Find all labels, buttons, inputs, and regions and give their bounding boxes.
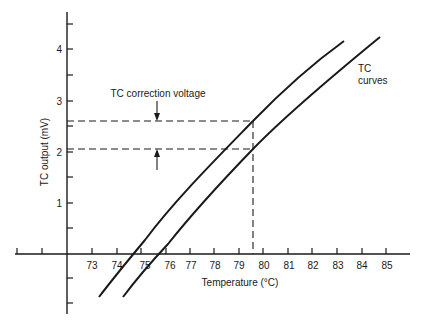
- svg-text:78: 78: [209, 260, 221, 271]
- svg-text:82: 82: [307, 260, 319, 271]
- svg-text:4: 4: [56, 44, 62, 55]
- dashed-guides: [67, 121, 253, 254]
- svg-text:80: 80: [258, 260, 270, 271]
- correction-voltage-label: TC correction voltage: [110, 88, 205, 99]
- svg-text:81: 81: [283, 260, 295, 271]
- svg-text:76: 76: [164, 260, 176, 271]
- svg-text:75: 75: [139, 260, 151, 271]
- svg-text:83: 83: [332, 260, 344, 271]
- svg-text:79: 79: [233, 260, 245, 271]
- tc-curve-upper: [99, 41, 344, 297]
- svg-text:3: 3: [56, 96, 62, 107]
- tc-curve-lower: [123, 37, 380, 297]
- svg-text:74: 74: [111, 260, 123, 271]
- svg-text:77: 77: [185, 260, 197, 271]
- y-tick-labels: 4 3 2 1: [56, 44, 62, 209]
- y-ticks: [67, 24, 73, 303]
- tc-curves-label-line2: curves: [358, 75, 387, 86]
- x-axis-label: Temperature (°C): [202, 277, 279, 288]
- svg-text:84: 84: [356, 260, 368, 271]
- svg-text:85: 85: [381, 260, 393, 271]
- y-axis-label: TC output (mV): [39, 118, 50, 186]
- svg-text:1: 1: [56, 198, 62, 209]
- arrow-down-icon: [154, 113, 160, 121]
- tc-curves-label-line1: TC: [358, 63, 371, 74]
- x-tick-labels: 73 74 75 76 77 78 79 80 81 82 83 84 85: [86, 260, 393, 271]
- svg-text:73: 73: [86, 260, 98, 271]
- svg-text:2: 2: [56, 147, 62, 158]
- tc-diagram: 4 3 2 1 73 74 75 76 77 78 79 80 81 82 83…: [0, 0, 423, 327]
- arrow-up-icon: [154, 149, 160, 157]
- x-ticks: [17, 248, 386, 254]
